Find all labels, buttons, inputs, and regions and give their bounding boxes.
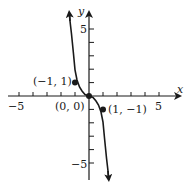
- y-tick-label-5: 5: [80, 23, 87, 36]
- point-origin: [86, 93, 92, 99]
- y-axis-label: y: [77, 5, 85, 18]
- x-tick-label-5: 5: [155, 100, 162, 113]
- x-tick-label-neg5: −5: [8, 100, 24, 113]
- point-neg1-1: [72, 80, 78, 86]
- point-label-neg1-1: (−1, 1): [33, 75, 72, 88]
- cubic-graph: x y −5 5 5 −5 (−1, 1) (0, 0) (1, −1): [0, 0, 188, 184]
- point-1-neg1: [100, 106, 106, 112]
- y-tick-label-neg5: −5: [71, 158, 87, 171]
- point-label-origin: (0, 0): [55, 100, 85, 113]
- point-label-1-neg1: (1, −1): [108, 103, 147, 116]
- x-axis-label: x: [177, 83, 184, 96]
